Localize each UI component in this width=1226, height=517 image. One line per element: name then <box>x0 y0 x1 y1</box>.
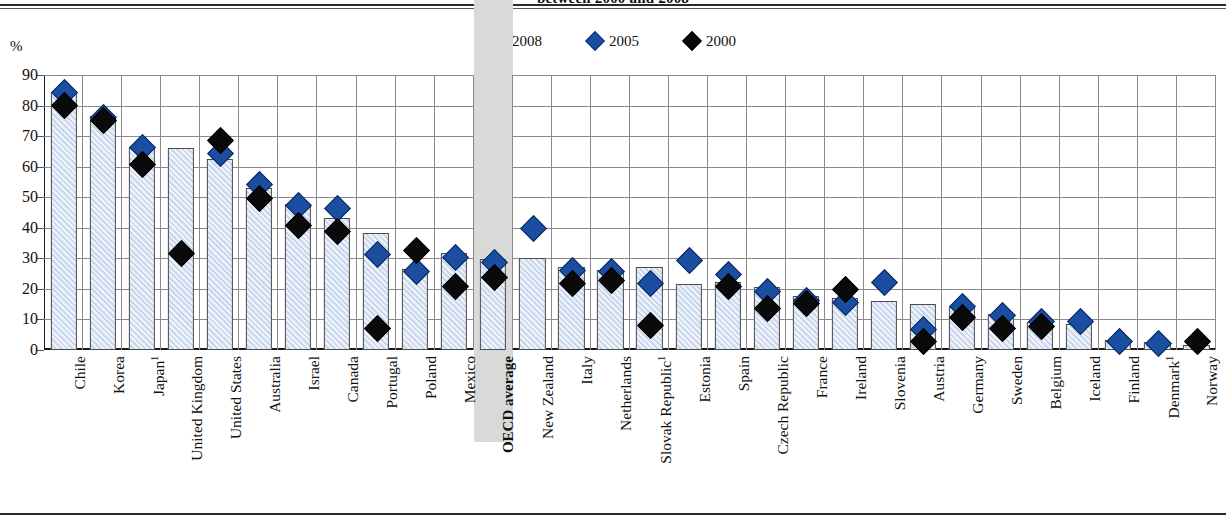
plot-area: 0102030405060708090 <box>44 75 1216 350</box>
chart-column[interactable] <box>747 75 786 350</box>
chart-column[interactable] <box>1177 75 1216 350</box>
y-tick-mark <box>37 197 44 198</box>
y-tick-mark <box>37 289 44 290</box>
x-label-cell: Estonia <box>669 352 708 512</box>
y-tick-label: 30 <box>22 249 38 267</box>
x-label-cell: Slovak Republic1 <box>630 352 669 512</box>
x-label-cell: United Kingdom <box>161 352 200 512</box>
y-tick-label: 90 <box>22 66 38 84</box>
x-axis-tick-label: Norway <box>1204 356 1220 406</box>
x-label-cell: Chile <box>44 352 83 512</box>
x-label-cell: Czech Republic <box>747 352 786 512</box>
y-tick-mark <box>37 228 44 229</box>
bar-2008[interactable] <box>89 116 115 350</box>
x-axis-labels: ChileKoreaJapan1United KingdomUnited Sta… <box>44 352 1216 512</box>
x-label-cell: Sweden <box>982 352 1021 512</box>
chart-column[interactable] <box>982 75 1021 350</box>
bar-2008[interactable] <box>675 284 701 350</box>
legend-item: 2005 <box>588 33 639 50</box>
chart-column[interactable] <box>317 75 356 350</box>
top-rule <box>0 4 1226 6</box>
chart-column[interactable] <box>122 75 161 350</box>
legend-label: 2008 <box>512 33 542 50</box>
figure-panel: between 2000 and 2008 200820052000 % 010… <box>0 0 1226 517</box>
x-label-cell: Israel <box>278 352 317 512</box>
chart-column[interactable] <box>669 75 708 350</box>
chart-column[interactable] <box>161 75 200 350</box>
y-tick-mark <box>37 319 44 320</box>
chart-column[interactable] <box>630 75 669 350</box>
x-label-cell: Australia <box>239 352 278 512</box>
figure-title: between 2000 and 2008 <box>0 0 1226 4</box>
y-axis-unit-label: % <box>10 38 23 55</box>
x-label-cell: Iceland <box>1060 352 1099 512</box>
chart-column[interactable] <box>552 75 591 350</box>
chart-column[interactable] <box>200 75 239 350</box>
x-label-cell: Slovenia <box>864 352 903 512</box>
chart-column[interactable] <box>435 75 474 350</box>
top-rule-thin <box>0 8 1226 9</box>
x-label-cell: Norway <box>1177 352 1216 512</box>
chart-column[interactable] <box>825 75 864 350</box>
marker-2005[interactable] <box>676 247 703 274</box>
bar-2008[interactable] <box>519 258 545 350</box>
legend-diamond-black-icon <box>682 31 702 51</box>
marker-2000[interactable] <box>403 237 430 264</box>
chart-column[interactable] <box>396 75 435 350</box>
marker-2005[interactable] <box>520 215 547 242</box>
x-label-cell: New Zealand <box>513 352 552 512</box>
chart-column[interactable] <box>903 75 942 350</box>
chart-column[interactable] <box>1060 75 1099 350</box>
y-tick-label: 40 <box>22 219 38 237</box>
x-label-cell: Italy <box>552 352 591 512</box>
chart-column[interactable] <box>83 75 122 350</box>
x-label-cell: France <box>786 352 825 512</box>
legend-label: 2000 <box>706 33 736 50</box>
x-label-cell: Japan1 <box>122 352 161 512</box>
bar-2008[interactable] <box>871 301 897 350</box>
x-label-cell: Canada <box>317 352 356 512</box>
x-label-cell: Mexico <box>435 352 474 512</box>
x-label-cell: Spain <box>708 352 747 512</box>
legend-item: 2000 <box>685 33 736 50</box>
chart-column[interactable] <box>278 75 317 350</box>
x-label-cell: Austria <box>903 352 942 512</box>
chart-column[interactable] <box>786 75 825 350</box>
chart-column[interactable] <box>1138 75 1177 350</box>
chart-column[interactable] <box>513 75 552 350</box>
x-label-cell: Belgium <box>1021 352 1060 512</box>
y-tick-label: 20 <box>22 280 38 298</box>
x-label-cell: Poland <box>396 352 435 512</box>
chart-column[interactable] <box>708 75 747 350</box>
legend-label: 2005 <box>609 33 639 50</box>
bar-2008[interactable] <box>207 159 233 350</box>
x-label-cell: United States <box>200 352 239 512</box>
marker-2005[interactable] <box>871 269 898 296</box>
y-tick-mark <box>37 106 44 107</box>
y-tick-mark <box>37 167 44 168</box>
x-label-cell: Netherlands <box>591 352 630 512</box>
y-tick-mark <box>37 75 44 76</box>
chart-column[interactable] <box>1021 75 1060 350</box>
chart-column[interactable] <box>591 75 630 350</box>
chart-column[interactable] <box>357 75 396 350</box>
chart-column[interactable] <box>44 75 83 350</box>
column-separator <box>1215 75 1216 350</box>
chart-column[interactable] <box>1099 75 1138 350</box>
y-tick-label: 0 <box>30 341 38 359</box>
chart-column[interactable] <box>474 75 513 350</box>
legend-diamond-blue-icon <box>585 31 605 51</box>
x-label-cell: Germany <box>942 352 981 512</box>
bar-2008[interactable] <box>50 93 76 350</box>
y-tick-label: 70 <box>22 127 38 145</box>
chart-column[interactable] <box>239 75 278 350</box>
y-tick-mark <box>37 258 44 259</box>
bar-2008[interactable] <box>129 148 155 350</box>
y-tick-mark <box>37 350 44 351</box>
y-tick-label: 10 <box>22 310 38 328</box>
y-tick-label: 60 <box>22 158 38 176</box>
chart-column[interactable] <box>942 75 981 350</box>
x-label-cell: Denmark1 <box>1138 352 1177 512</box>
bar-columns <box>44 75 1216 350</box>
chart-column[interactable] <box>864 75 903 350</box>
